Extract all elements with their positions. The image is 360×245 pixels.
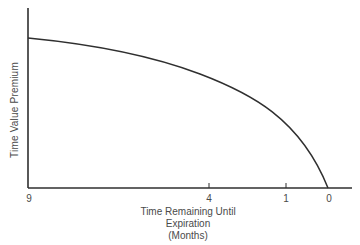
- x-tick-label-9: 9: [26, 193, 32, 204]
- premium-decay-curve: [28, 38, 328, 188]
- x-axis-label-line3: (Months): [140, 230, 235, 242]
- x-tick-label-4: 4: [206, 193, 212, 204]
- y-axis-label: Time Value Premium: [9, 62, 20, 158]
- x-tick-label-1: 1: [283, 193, 289, 204]
- x-axis-label-line2: Expiration: [140, 218, 235, 230]
- x-tick-label-0: 0: [326, 193, 332, 204]
- x-axis-label: Time Remaining Until Expiration (Months): [140, 206, 235, 242]
- x-axis-label-line1: Time Remaining Until: [140, 206, 235, 218]
